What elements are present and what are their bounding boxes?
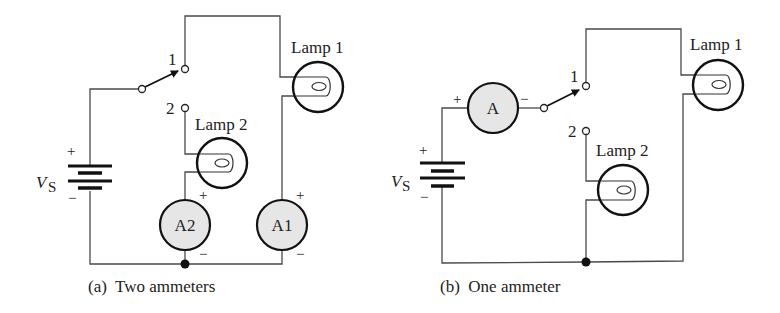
figure-b-voltage-source: + − V S (391, 142, 465, 205)
figure-b-lamp-1: Lamp 1 (690, 35, 743, 110)
figure-b-ammeter-plus: + (453, 91, 461, 107)
figure-b-ammeter-minus: − (520, 91, 528, 107)
figure-a-junction-dot (181, 260, 190, 269)
figure-b-caption: (b) One ammeter (440, 277, 561, 296)
figure-b-wires (442, 29, 696, 263)
figure-a-source-minus: − (68, 190, 76, 206)
figure-a-switch-terminal-2 (182, 105, 189, 112)
figure-a-lamp-2-label: Lamp 2 (195, 115, 247, 134)
figure-a-switch: 1 2 (139, 50, 189, 118)
figure-b-source-subscript: S (402, 178, 410, 194)
figure-b-switch-pivot (541, 105, 548, 112)
figure-a-ammeter-2-label: A2 (175, 216, 196, 235)
figure-b-terminal-2-label: 2 (568, 122, 577, 141)
figure-a-source-subscript: S (48, 179, 56, 195)
figure-b-ammeter-label: A (487, 99, 500, 118)
figure-a-ammeter-1-label: A1 (272, 216, 293, 235)
figure-a-lamp-1: Lamp 1 (291, 38, 343, 112)
figure-a-ammeter-2-plus: + (199, 187, 207, 203)
figure-b-switch: 1 2 (541, 67, 590, 141)
figure-b-lamp-2: Lamp 2 (596, 141, 648, 215)
figure-b-lamp-1-label: Lamp 1 (690, 35, 742, 54)
figure-b-switch-terminal-1 (583, 83, 590, 90)
figure-a-ammeter-1-plus: + (296, 187, 304, 203)
figure-a-lamp-1-label: Lamp 1 (291, 38, 343, 57)
figure-a-source-plus: + (67, 143, 75, 159)
figure-b-terminal-1-label: 1 (570, 67, 579, 86)
figure-a-two-ammeters: + − V S 1 2 Lamp 1 Lamp 2 (36, 16, 343, 296)
figure-a-caption: (a) Two ammeters (88, 277, 215, 296)
figure-b-junction-dot (582, 258, 591, 267)
figure-b-lamp-2-label: Lamp 2 (596, 141, 648, 160)
figure-a-switch-pivot (139, 86, 146, 93)
figure-b-source-minus: − (420, 189, 428, 205)
figure-a-voltage-source: + − V S (36, 143, 112, 206)
figure-b-one-ammeter: + − V S A + − 1 2 Lamp 1 (391, 29, 743, 296)
figure-a-ammeter-2-minus: − (199, 246, 207, 262)
figure-b-source-plus: + (419, 142, 427, 158)
figure-a-lamp-2: Lamp 2 (195, 115, 247, 188)
figure-a-switch-terminal-1 (182, 66, 189, 73)
figure-a-terminal-2-label: 2 (166, 99, 175, 118)
figure-a-terminal-1-label: 1 (168, 50, 177, 69)
figure-b-switch-terminal-2 (583, 128, 590, 135)
figure-a-ammeter-1-minus: − (296, 246, 304, 262)
circuit-diagrams: + − V S 1 2 Lamp 1 Lamp 2 (0, 0, 780, 313)
